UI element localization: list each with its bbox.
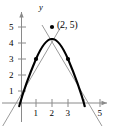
y-tick-label-5: 5 xyxy=(9,23,14,32)
parabola-curve xyxy=(19,39,85,106)
point-dot-tangency-left xyxy=(34,57,38,61)
x-tick-label-2: 2 xyxy=(50,109,55,118)
y-tick-label-1: 1 xyxy=(9,87,14,96)
x-tick-label-1: 1 xyxy=(34,109,39,118)
point-dot-tangency-right xyxy=(66,57,70,61)
y-tick-label-2: 2 xyxy=(9,71,14,80)
x-axis-arrow-icon xyxy=(102,101,108,105)
y-axis-arrow-icon xyxy=(19,12,23,18)
y-axis-label: y xyxy=(39,3,43,12)
x-tick-label-5: 5 xyxy=(98,109,103,118)
point-dot-intersection xyxy=(50,25,54,29)
y-tick-label-4: 4 xyxy=(9,39,14,48)
x-tick-label-3: 3 xyxy=(66,109,71,118)
point-annotation-label: (2, 5) xyxy=(57,21,78,31)
parabola-tangent-figure: y (2, 5) 1 2 3 5 1 2 3 4 5 xyxy=(0,0,115,126)
y-tick-label-3: 3 xyxy=(9,55,14,64)
